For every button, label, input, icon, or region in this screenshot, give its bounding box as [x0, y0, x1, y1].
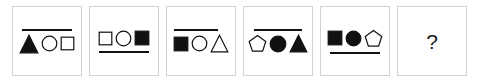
circle-hollow-icon [41, 35, 58, 52]
panel-content: ? [398, 7, 466, 75]
triangle-hollow-icon [210, 34, 229, 53]
panel-content [13, 7, 81, 75]
shape-group [327, 29, 383, 48]
circle-hollow-icon [191, 35, 208, 52]
question-mark-placeholder: ? [426, 31, 438, 52]
square-solid-icon [134, 30, 150, 46]
triangle-solid-icon [289, 34, 308, 53]
pentagon-hollow-icon [248, 34, 267, 53]
shape-group [19, 34, 75, 54]
panel-content [321, 7, 389, 75]
separator-bar-top [174, 29, 218, 31]
panel-content [167, 7, 235, 75]
shape-group [98, 30, 150, 47]
separator-bar-bottom [330, 52, 380, 54]
panel-content [244, 7, 312, 75]
separator-bar-top [22, 29, 72, 31]
panel-content [90, 7, 158, 75]
panel-6-answer[interactable]: ? [397, 6, 467, 76]
separator-bar-top [254, 29, 302, 31]
panel-4 [243, 6, 313, 76]
puzzle-sequence-row: ? [0, 0, 484, 76]
pentagon-hollow-icon [364, 29, 383, 48]
shape-group [173, 34, 229, 53]
panel-1 [12, 6, 82, 76]
circle-hollow-icon [115, 30, 132, 47]
square-hollow-icon [60, 36, 75, 51]
circle-solid-icon [269, 35, 287, 53]
triangle-solid-icon [19, 34, 39, 54]
separator-bar-bottom [99, 51, 149, 53]
shape-group [248, 34, 308, 53]
circle-solid-icon [345, 30, 362, 47]
square-hollow-icon [98, 31, 113, 46]
square-solid-icon [327, 30, 343, 46]
panel-2 [89, 6, 159, 76]
panel-5 [320, 6, 390, 76]
panel-3 [166, 6, 236, 76]
square-solid-icon [173, 36, 189, 52]
